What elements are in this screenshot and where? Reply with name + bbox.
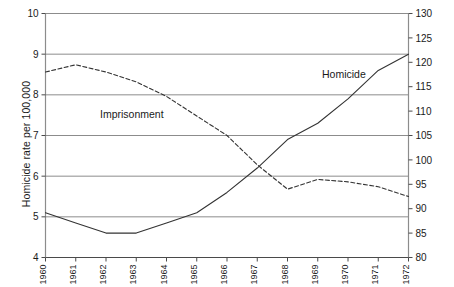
y-axis-left-tick-label: 7: [33, 130, 39, 141]
x-axis-tick-label: 1965: [189, 265, 199, 285]
series-line-imprisonment: [46, 65, 409, 197]
chart-container: Homicide rate per 100,000 45678910808590…: [0, 0, 454, 287]
y-axis-right-tick-label: 125: [416, 33, 433, 44]
y-axis-right-tick-label: 95: [416, 179, 428, 190]
x-axis-tick-label: 1963: [128, 265, 138, 285]
x-axis-tick-label: 1971: [370, 265, 380, 285]
x-axis-tick-label: 1969: [310, 265, 320, 285]
x-axis-tick-label: 1968: [280, 265, 290, 285]
series-line-homicide: [46, 54, 409, 233]
chart-plot: 4567891080859095100105110115120125130196…: [0, 0, 454, 287]
y-axis-right-tick-label: 115: [416, 81, 432, 92]
y-axis-right-tick-label: 100: [416, 155, 433, 166]
x-axis-tick-label: 1967: [249, 265, 259, 285]
x-axis-tick-label: 1962: [98, 265, 108, 285]
y-axis-right-tick-label: 80: [416, 252, 428, 263]
y-axis-right-tick-label: 85: [416, 228, 428, 239]
y-axis-left-tick-label: 10: [27, 8, 39, 19]
y-axis-right-tick-label: 110: [416, 106, 432, 117]
x-axis-tick-label: 1960: [38, 265, 48, 285]
series-annotation-imprisonment: Imprisonment: [100, 108, 164, 120]
y-axis-right-tick-label: 105: [416, 130, 433, 141]
y-axis-left-tick-label: 9: [33, 49, 39, 60]
y-axis-left-tick-label: 8: [33, 89, 39, 100]
x-axis-tick-label: 1964: [159, 265, 169, 285]
x-axis-tick-label: 1961: [68, 265, 78, 285]
y-axis-right-tick-label: 130: [416, 8, 433, 19]
y-axis-right-tick-label: 120: [416, 57, 433, 68]
y-axis-left-tick-label: 4: [33, 252, 39, 263]
x-axis-tick-label: 1966: [219, 265, 229, 285]
x-axis-tick-label: 1972: [401, 265, 411, 285]
series-annotation-homicide: Homicide: [322, 68, 366, 80]
y-axis-left-tick-label: 6: [33, 171, 39, 182]
x-axis-tick-label: 1970: [340, 265, 350, 285]
y-axis-right-tick-label: 90: [416, 203, 428, 214]
y-axis-left-tick-label: 5: [33, 211, 39, 222]
